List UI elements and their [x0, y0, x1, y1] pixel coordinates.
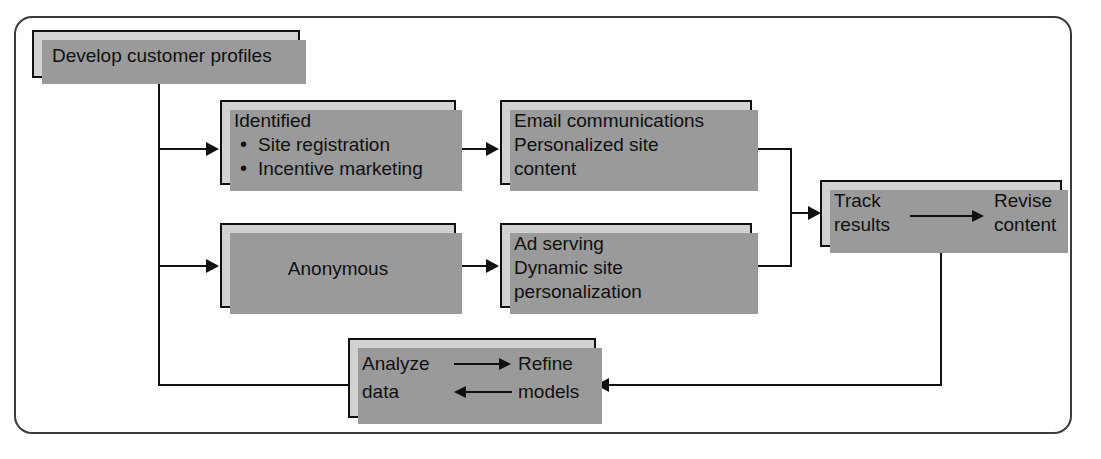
- edge-track-feedback-horizontal: [608, 384, 942, 386]
- node-identified-heading: Identified: [234, 109, 311, 132]
- node-anonymous[interactable]: Anonymous: [220, 223, 456, 308]
- edge-develop-to-anonymous-arrowhead: [206, 259, 219, 273]
- node-identified-bullet-1: Site registration: [238, 133, 423, 157]
- edge-develop-stem: [158, 78, 160, 386]
- edge-merge-bus: [790, 148, 792, 267]
- node-track-line-2: results: [834, 213, 890, 236]
- node-revise-line-1: Revise: [994, 189, 1052, 212]
- node-email-line-1: Email communications: [514, 109, 704, 132]
- node-identified-bullet-2: Incentive marketing: [238, 157, 423, 181]
- node-track-results-revise-content[interactable]: Track results Revise content: [820, 180, 1062, 247]
- edge-adserving-to-bus: [752, 265, 792, 267]
- diagram-canvas: Develop customer profiles Identified Sit…: [0, 0, 1101, 459]
- node-adserving-line-2: Dynamic site: [514, 256, 623, 279]
- node-identified-bullets: Site registration Incentive marketing: [238, 133, 423, 181]
- edge-anonymous-to-adserving-arrowhead: [486, 259, 499, 273]
- node-refine-line-1: Refine: [518, 352, 573, 375]
- node-develop-customer-profiles[interactable]: Develop customer profiles: [32, 30, 300, 78]
- edge-develop-to-analyze: [158, 384, 348, 386]
- node-ad-serving[interactable]: Ad serving Dynamic site personalization: [500, 223, 752, 308]
- node-analyze-line-2: data: [362, 380, 399, 403]
- edge-develop-to-identified-arrowhead: [206, 142, 219, 156]
- node-develop-label: Develop customer profiles: [52, 44, 272, 67]
- node-track-line-1: Track: [834, 189, 881, 212]
- edge-identified-to-email-arrowhead: [486, 142, 499, 156]
- edge-develop-to-identified: [158, 148, 208, 150]
- node-revise-line-2: content: [994, 213, 1056, 236]
- node-adserving-line-3: personalization: [514, 280, 642, 303]
- node-email-line-3: content: [514, 157, 576, 180]
- edge-track-feedback-vertical: [940, 247, 942, 386]
- node-identified[interactable]: Identified Site registration Incentive m…: [220, 100, 456, 185]
- node-adserving-line-1: Ad serving: [514, 232, 604, 255]
- node-refine-line-2: models: [518, 380, 579, 403]
- node-analyze-line-1: Analyze: [362, 352, 430, 375]
- edge-email-to-bus: [752, 148, 792, 150]
- node-email-communications[interactable]: Email communications Personalized site c…: [500, 100, 752, 185]
- node-anonymous-label: Anonymous: [222, 257, 454, 280]
- node-analyze-data-refine-models[interactable]: Analyze data Refine models: [348, 338, 596, 418]
- node-email-line-2: Personalized site: [514, 133, 659, 156]
- edge-develop-to-anonymous: [158, 265, 208, 267]
